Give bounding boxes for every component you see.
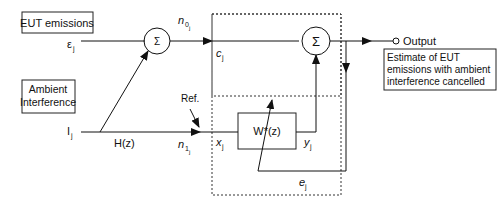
ambient-interference-block: Ambient Interference	[20, 80, 76, 113]
signal-n1: n 1 j	[178, 138, 190, 155]
sigma-icon: Σ	[154, 36, 160, 47]
summing-junction-1: Σ	[144, 28, 170, 54]
ambient-label-1: Ambient	[29, 83, 68, 95]
svg-text:j: j	[309, 143, 312, 151]
adaptive-noise-canceller-diagram: EUT emissions Ambient Interference ε j I…	[0, 0, 502, 203]
signal-n0: n 0 j	[178, 14, 190, 31]
signal-y: y j	[303, 136, 312, 151]
adaptive-filter-block: W*(z)	[238, 113, 296, 149]
svg-text:interference cancelled: interference cancelled	[387, 76, 485, 87]
svg-text:Estimate of EUT: Estimate of EUT	[387, 52, 460, 63]
svg-text:j: j	[304, 183, 307, 191]
output-label: Output	[403, 35, 436, 47]
svg-text:j: j	[70, 132, 73, 140]
eut-emissions-label: EUT emissions	[20, 17, 94, 29]
signal-x: x j	[215, 136, 224, 151]
output-terminal	[393, 38, 399, 44]
reference-label: Ref.	[181, 93, 199, 104]
svg-text:x: x	[215, 136, 222, 148]
adaptive-filter-boundary	[212, 14, 341, 96]
svg-text:n: n	[178, 14, 184, 26]
svg-text:j: j	[221, 143, 224, 151]
svg-text:emissions with ambient: emissions with ambient	[387, 64, 491, 75]
signal-interference: I j	[67, 125, 73, 140]
transfer-function-label: H(z)	[114, 137, 135, 149]
summing-junction-2: Σ	[302, 27, 330, 55]
output-description-block: Estimate of EUT emissions with ambient i…	[384, 49, 496, 90]
signal-error: e j	[299, 176, 307, 191]
eut-emissions-block: EUT emissions	[20, 12, 94, 33]
svg-text:j: j	[188, 25, 190, 31]
signal-epsilon: ε j	[67, 38, 75, 53]
svg-text:I: I	[67, 125, 70, 137]
reference-indicator-arrow	[190, 109, 199, 127]
svg-text:j: j	[221, 54, 224, 62]
svg-text:j: j	[72, 45, 75, 53]
interference-to-sum1-arrow	[100, 51, 148, 132]
svg-text:ε: ε	[67, 38, 72, 50]
svg-text:n: n	[178, 138, 184, 150]
signal-c: c j	[216, 47, 224, 62]
sigma-icon: Σ	[312, 34, 320, 49]
svg-text:j: j	[188, 149, 190, 155]
ambient-label-2: Interference	[20, 96, 76, 108]
